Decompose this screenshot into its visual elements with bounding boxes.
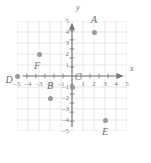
data-point (15, 74, 20, 79)
data-point (70, 85, 75, 90)
x-tick-label: 3 (103, 81, 107, 88)
y-tick-label: –4 (62, 117, 69, 124)
data-point (37, 52, 42, 57)
x-tick-label: 1 (81, 81, 85, 88)
x-tick-label: –4 (25, 81, 32, 88)
point-label: B (47, 81, 53, 91)
coordinate-plane-figure: –5–4–3–2–112345 54321–1–2–3–4–5 x y ABCD… (0, 0, 151, 163)
data-point (103, 118, 108, 123)
x-tick-label: 5 (125, 81, 129, 88)
point-label: D (5, 75, 12, 85)
x-tick-label: –3 (36, 81, 43, 88)
y-axis-arrow (70, 24, 74, 29)
point-label: C (75, 72, 82, 82)
plot-area: –5–4–3–2–112345 54321–1–2–3–4–5 x y ABCD… (17, 21, 127, 131)
y-tick-label: –5 (62, 128, 69, 135)
y-tick-label: –2 (62, 95, 69, 102)
point-label: E (102, 127, 108, 137)
y-tick-label: 1 (66, 62, 70, 69)
y-tick-label: –1 (62, 84, 69, 91)
y-axis-label: y (76, 4, 80, 12)
x-tick-label: 2 (92, 81, 96, 88)
data-point (48, 96, 53, 101)
x-axis-label: x (130, 65, 134, 73)
axes (17, 21, 127, 131)
y-tick-label: 4 (66, 29, 70, 36)
y-tick-label: –3 (62, 106, 69, 113)
point-label: A (91, 15, 97, 25)
x-tick-label: 4 (114, 81, 118, 88)
y-tick-label: 3 (66, 40, 70, 47)
data-point (92, 30, 97, 35)
x-tick-label: –5 (14, 81, 21, 88)
point-label: F (34, 61, 40, 71)
y-tick-label: 5 (66, 18, 70, 25)
x-axis-arrow (117, 74, 122, 78)
y-tick-label: 2 (66, 51, 70, 58)
